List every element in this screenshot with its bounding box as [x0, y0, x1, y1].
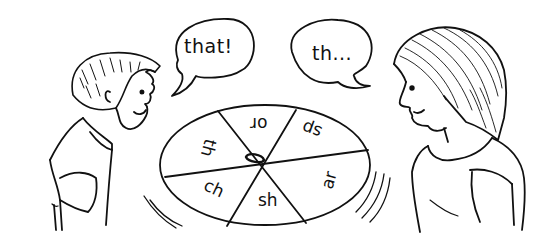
- boy-figure: [50, 53, 160, 230]
- spinner-segment-or: or: [250, 114, 267, 134]
- line-art: [0, 0, 553, 250]
- spinner-segment-sh: sh: [258, 190, 278, 210]
- boy-speech-bubble: [172, 19, 254, 96]
- girl-figure: [394, 27, 525, 232]
- illustration: that! th... or sp ar sh ch th: [0, 0, 553, 250]
- boy-speech-text: that!: [184, 35, 233, 57]
- girl-speech-text: th...: [312, 42, 352, 64]
